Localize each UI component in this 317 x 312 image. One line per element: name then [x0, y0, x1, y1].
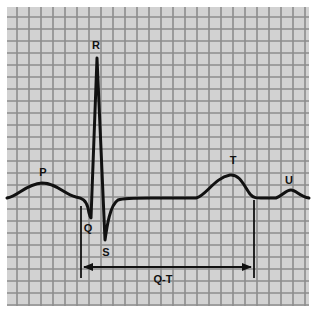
label-q-wave: Q [84, 222, 93, 234]
label-s-wave: S [102, 246, 109, 258]
label-qt-interval: Q-T [154, 273, 173, 285]
ecg-diagram: P R Q S T U Q-T [0, 0, 317, 312]
label-t-wave: T [230, 154, 237, 166]
label-p-wave: P [39, 166, 46, 178]
label-r-wave: R [92, 39, 100, 51]
label-u-wave: U [285, 174, 293, 186]
